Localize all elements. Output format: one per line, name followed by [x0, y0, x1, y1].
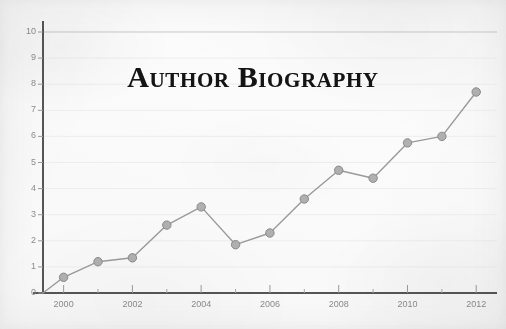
data-point-marker — [266, 229, 274, 237]
y-tick-label: 7 — [12, 104, 36, 114]
y-tick-label: 0 — [12, 287, 36, 297]
x-tick-label: 2004 — [177, 299, 225, 309]
line-chart-svg — [0, 0, 506, 329]
data-point-marker — [369, 174, 377, 182]
y-tick-label: 10 — [12, 26, 36, 36]
x-tick-label: 2010 — [383, 299, 431, 309]
data-point-marker — [403, 139, 411, 147]
data-point-marker — [59, 273, 67, 281]
x-tick-label: 2012 — [452, 299, 500, 309]
data-point-marker — [128, 254, 136, 262]
chart-image: 012345678910 200020022004200620082010201… — [0, 0, 506, 329]
data-point-marker — [197, 203, 205, 211]
chart-plot-area: 012345678910 200020022004200620082010201… — [0, 0, 506, 329]
series-line-author-biography — [43, 92, 476, 293]
x-tick-label: 2008 — [315, 299, 363, 309]
y-tick-label: 6 — [12, 130, 36, 140]
y-tick-label: 4 — [12, 183, 36, 193]
data-point-marker — [163, 221, 171, 229]
x-tick-label: 2006 — [246, 299, 294, 309]
series-markers-group — [59, 88, 480, 282]
x-tick-label: 2002 — [108, 299, 156, 309]
data-point-marker — [438, 132, 446, 140]
y-tick-label: 3 — [12, 209, 36, 219]
y-tick-label: 5 — [12, 157, 36, 167]
x-tick-label: 2000 — [40, 299, 88, 309]
data-point-marker — [300, 195, 308, 203]
y-tick-label: 2 — [12, 235, 36, 245]
y-tick-label: 1 — [12, 261, 36, 271]
chart-title: Author Biography — [0, 60, 506, 94]
data-point-marker — [94, 258, 102, 266]
data-point-marker — [335, 166, 343, 174]
data-point-marker — [231, 241, 239, 249]
